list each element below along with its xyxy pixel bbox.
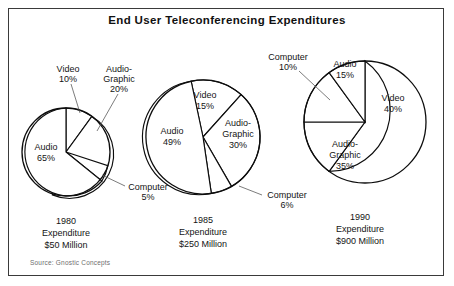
label-1990-computer-name: Computer: [268, 52, 308, 62]
label-1980-computer-pct: 5%: [141, 192, 154, 202]
label-1980-audio-pct: 65%: [37, 153, 55, 163]
leader-1980-audio-graphic: [97, 94, 118, 131]
label-1980-audio-name: Audio: [34, 142, 57, 152]
caption-1990-label: Expenditure: [336, 224, 384, 234]
label-1980-ag-name2: Graphic: [103, 74, 135, 84]
label-1980-computer-name: Computer: [128, 182, 168, 192]
label-1980-ag-name: Audio-: [106, 64, 132, 74]
caption-1985-label: Expenditure: [179, 227, 227, 237]
label-1980-video-name: Video: [57, 64, 80, 74]
caption-1985-value: $250 Million: [179, 239, 227, 249]
caption-1990-value: $900 Million: [336, 236, 384, 246]
caption-1980-value: $50 Million: [44, 240, 87, 250]
label-1985-ag-name2: Graphic: [222, 129, 254, 139]
pie-chart-1990: [299, 61, 426, 183]
source-note: Source: Gnostic Concepts: [30, 259, 110, 266]
label-1990-ag-name: Audio-: [332, 139, 358, 149]
label-1985-video-pct: 15%: [196, 101, 214, 111]
label-1980-video-pct: 10%: [59, 74, 77, 84]
caption-1985-year: 1985: [193, 215, 213, 225]
label-1990-computer-pct: 10%: [279, 62, 297, 72]
caption-1980-label: Expenditure: [42, 228, 90, 238]
caption-1990-year: 1990: [350, 212, 370, 222]
label-1990-audio-name: Audio: [333, 59, 356, 69]
label-1985-ag-name: Audio-: [225, 118, 251, 128]
label-1985-computer-name: Computer: [267, 190, 307, 200]
label-1985-video-name: Video: [194, 90, 217, 100]
label-1990-video-name: Video: [382, 93, 405, 103]
label-1980-ag-pct: 20%: [110, 84, 128, 94]
pie-charts-figure: Video 10% Audio- Graphic 20% Audio 65% C…: [0, 0, 454, 286]
label-1990-video-pct: 40%: [384, 104, 402, 114]
label-1985-computer-pct: 6%: [280, 200, 293, 210]
label-1985-ag-pct: 30%: [229, 140, 247, 150]
chart-page: End User Teleconferencing Expenditures V…: [0, 0, 454, 286]
label-1990-ag-pct: 35%: [336, 161, 354, 171]
label-1985-audio-pct: 49%: [163, 137, 181, 147]
label-1985-audio-name: Audio: [160, 126, 183, 136]
leader-1985-computer: [239, 186, 262, 195]
label-1990-ag-name2: Graphic: [329, 150, 361, 160]
label-1990-audio-pct: 15%: [336, 70, 354, 80]
caption-1980-year: 1980: [56, 216, 76, 226]
